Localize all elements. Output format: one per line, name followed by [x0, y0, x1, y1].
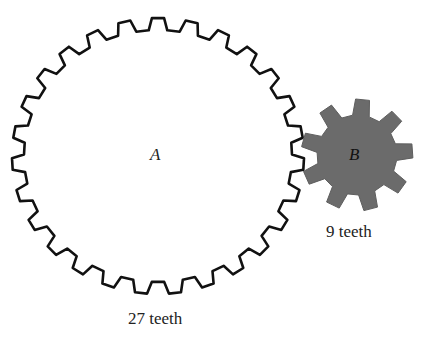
gear-diagram [0, 0, 431, 339]
gear-b-caption: 9 teeth [326, 222, 372, 242]
gear-b-label: B [349, 145, 359, 165]
gear-a-caption: 27 teeth [128, 309, 182, 329]
gear-a-label: A [150, 145, 160, 165]
